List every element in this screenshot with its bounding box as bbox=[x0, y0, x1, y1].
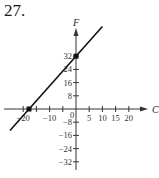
svg-text:5: 5 bbox=[87, 113, 91, 123]
svg-text:−32: −32 bbox=[59, 157, 72, 167]
svg-text:−8: −8 bbox=[63, 117, 72, 127]
svg-text:−24: −24 bbox=[59, 144, 73, 154]
svg-text:8: 8 bbox=[68, 91, 72, 101]
svg-text:−10: −10 bbox=[43, 113, 56, 123]
x-axis-label: C bbox=[152, 104, 159, 115]
svg-text:15: 15 bbox=[111, 113, 120, 123]
svg-text:−16: −16 bbox=[59, 130, 72, 140]
y-axis-label: F bbox=[72, 17, 80, 28]
svg-text:10: 10 bbox=[98, 113, 107, 123]
chart: FC −20−10051015203224168−8−16−24−32 bbox=[0, 0, 159, 178]
axes: FC bbox=[4, 17, 159, 170]
svg-text:32: 32 bbox=[64, 51, 73, 61]
svg-text:16: 16 bbox=[64, 78, 73, 88]
svg-text:20: 20 bbox=[125, 113, 134, 123]
